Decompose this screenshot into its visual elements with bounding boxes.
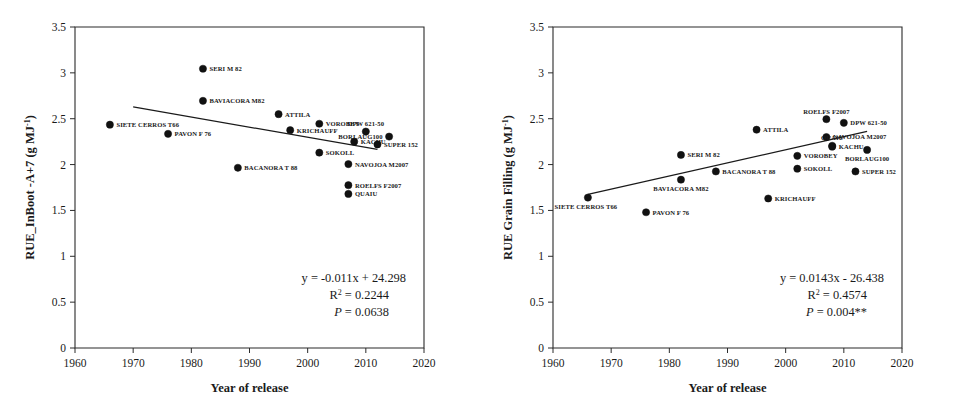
data-point-marker[interactable] — [374, 141, 381, 148]
x-tick-label: 2020 — [891, 357, 914, 369]
data-points-group: SIETE CERROS T66PAVON F 76SERI M 82BAVIA… — [555, 108, 897, 216]
data-point[interactable]: BAVIACORA M82 — [653, 176, 709, 192]
x-tick-label: 2010 — [832, 357, 855, 369]
data-point-marker[interactable] — [852, 168, 859, 175]
x-tick-label: 1990 — [238, 357, 261, 369]
data-point-marker[interactable] — [677, 176, 684, 183]
data-point-marker[interactable] — [584, 194, 591, 201]
x-tick-label: 2000 — [774, 357, 797, 369]
data-point-label: BORLAUG100 — [338, 133, 383, 140]
scatter-plot-right: 00.511.522.533.5196019701980199020002010… — [478, 0, 956, 406]
data-point-marker[interactable] — [642, 209, 649, 216]
data-point-marker[interactable] — [794, 165, 801, 172]
data-point-marker[interactable] — [864, 146, 871, 153]
x-tick-label: 2000 — [296, 357, 319, 369]
chart-panel-right: 00.511.522.533.5196019701980199020002010… — [478, 0, 956, 406]
data-point[interactable]: SOKOLL — [316, 149, 355, 156]
data-point-marker[interactable] — [753, 126, 760, 133]
regression-annotation: y = -0.011x + 24.298R2 = 0.2244P = 0.063… — [302, 271, 406, 319]
data-point-label: BAVIACORA M82 — [653, 185, 709, 192]
y-tick-label: 0.5 — [530, 296, 545, 308]
data-point-marker[interactable] — [199, 65, 206, 72]
regression-equation: y = 0.0143x - 26.438 — [780, 271, 884, 285]
x-tick-label: 1970 — [600, 357, 623, 369]
data-point[interactable]: BAVIACORA M82 — [199, 97, 265, 104]
data-point-marker[interactable] — [275, 111, 282, 118]
data-point-marker[interactable] — [199, 97, 206, 104]
data-point[interactable]: SERI M 82 — [677, 151, 720, 158]
data-point[interactable]: ATTILA — [753, 126, 789, 133]
y-tick-label: 2.5 — [52, 113, 67, 125]
data-point-marker[interactable] — [106, 121, 113, 128]
figure-container: 00.511.522.533.5196019701980199020002010… — [0, 0, 956, 406]
data-point-label: BAVIACORA M82 — [209, 97, 265, 104]
data-point-label: DPW 621-50 — [850, 119, 887, 126]
x-tick-label: 2020 — [413, 357, 436, 369]
data-point[interactable]: ROELFS F2007 — [345, 182, 402, 189]
y-tick-label: 3 — [538, 67, 544, 79]
data-point[interactable]: KRICHAUFF — [765, 195, 816, 202]
data-point-marker[interactable] — [823, 116, 830, 123]
regression-r2: R2 = 0.2244 — [329, 288, 389, 302]
data-point[interactable]: SIETE CERROS T66 — [106, 121, 179, 128]
y-tick-label: 3.5 — [530, 21, 545, 33]
data-point-marker[interactable] — [287, 127, 294, 134]
data-point[interactable]: PAVON F 76 — [642, 209, 689, 216]
y-tick-label: 2 — [60, 159, 66, 171]
x-axis-title: Year of release — [689, 381, 767, 395]
data-point[interactable]: SIETE CERROS T66 — [555, 194, 618, 210]
data-point[interactable]: NAVOJOA M2007 — [345, 161, 409, 168]
y-tick-label: 1 — [538, 250, 544, 262]
data-point-label: BACANORA T 88 — [722, 168, 776, 175]
y-tick-label: 1 — [60, 250, 66, 262]
x-tick-label: 1960 — [64, 357, 87, 369]
regression-line — [133, 107, 377, 149]
regression-pvalue: P = 0.004** — [805, 305, 867, 319]
data-point[interactable]: DPW 621-50 — [840, 119, 887, 126]
trend-line-group — [133, 107, 377, 149]
data-point-marker[interactable] — [345, 182, 352, 189]
data-point[interactable]: KRICHAUFF — [287, 127, 338, 134]
data-point-marker[interactable] — [345, 190, 352, 197]
data-point-marker[interactable] — [386, 133, 393, 140]
data-point[interactable]: QUAIU — [345, 190, 378, 197]
y-tick-label: 2 — [538, 159, 544, 171]
regression-annotation: y = 0.0143x - 26.438R2 = 0.4574P = 0.004… — [780, 271, 884, 319]
data-point-marker[interactable] — [829, 143, 836, 150]
data-point-marker[interactable] — [234, 164, 241, 171]
data-point-marker[interactable] — [712, 168, 719, 175]
y-tick-label: 1.5 — [52, 204, 67, 216]
data-point-label: PAVON F 76 — [175, 130, 212, 137]
data-point[interactable]: PAVON F 76 — [164, 130, 211, 137]
data-point[interactable]: VOROBEY — [794, 152, 838, 159]
data-point-marker[interactable] — [164, 130, 171, 137]
data-point-label: SOKOLL — [804, 165, 833, 172]
data-point[interactable]: BACANORA T 88 — [712, 168, 776, 175]
data-point-label: QUAIU — [821, 134, 844, 141]
data-point-label: DPW 621-50 — [348, 120, 385, 127]
data-point-marker[interactable] — [840, 119, 847, 126]
data-point-label: NAVOJOA M2007 — [355, 161, 409, 168]
data-point-label: SUPER 152 — [384, 141, 419, 148]
data-point-label: QUAIU — [355, 190, 378, 197]
data-point[interactable]: ATTILA — [275, 111, 311, 118]
data-point-marker[interactable] — [316, 120, 323, 127]
data-point-marker[interactable] — [765, 195, 772, 202]
data-point[interactable]: KACHU — [829, 143, 864, 150]
data-point-marker[interactable] — [345, 161, 352, 168]
data-point-label: SOKOLL — [326, 149, 355, 156]
data-point-marker[interactable] — [677, 151, 684, 158]
data-points-group: SIETE CERROS T66PAVON F 76SERI M 82BAVIA… — [106, 65, 418, 197]
data-point-marker[interactable] — [794, 152, 801, 159]
data-point-label: BORLAUG100 — [845, 155, 890, 162]
data-point[interactable]: SERI M 82 — [199, 65, 242, 72]
y-tick-label: 3.5 — [52, 21, 67, 33]
y-tick-label: 1.5 — [530, 204, 545, 216]
data-point-label: ATTILA — [763, 126, 789, 133]
y-tick-label: 3 — [60, 67, 66, 79]
data-point[interactable]: SOKOLL — [794, 165, 833, 172]
data-point[interactable]: SUPER 152 — [852, 168, 897, 175]
data-point[interactable]: BACANORA T 88 — [234, 164, 298, 171]
data-point-label: SUPER 152 — [862, 168, 897, 175]
data-point-marker[interactable] — [316, 149, 323, 156]
